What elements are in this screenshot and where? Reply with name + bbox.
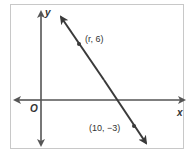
point-label-10-neg3: (10, −3) [89, 123, 120, 133]
point-label-r-6: (r, 6) [85, 34, 104, 44]
origin-label: O [30, 103, 38, 114]
y-axis-label: y [44, 7, 51, 18]
coordinate-plane-figure: y x O (r, 6) (10, −3) [0, 0, 190, 156]
point-10-neg3 [132, 124, 136, 128]
point-r-6 [77, 42, 81, 46]
x-axis-label: x [176, 107, 183, 118]
